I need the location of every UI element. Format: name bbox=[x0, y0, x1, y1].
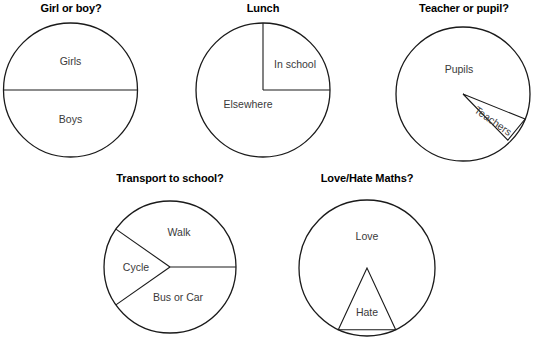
chart-title-girl-or-boy: Girl or boy? bbox=[0, 2, 142, 14]
pie-svg-lunch: In school Elsewhere bbox=[190, 18, 336, 164]
pie-svg-teacher-or-pupil: Pupils Teachers bbox=[393, 18, 535, 168]
pie-slice-label-pupils: Pupils bbox=[445, 63, 474, 75]
pie-slice-label-boys: Boys bbox=[59, 113, 82, 125]
pie-slice-label-walk: Walk bbox=[168, 226, 192, 238]
pie-chart-teacher-or-pupil: Teacher or pupil? Pupils Teachers bbox=[393, 2, 535, 164]
pie-slice-label-elsewhere: Elsewhere bbox=[223, 98, 272, 110]
pie-chart-love-hate-maths: Love/Hate Maths? Love Hate bbox=[295, 172, 439, 357]
pie-svg-love-hate-maths: Love Hate bbox=[295, 188, 439, 354]
pie-chart-girl-or-boy: Girl or boy? Girls Boys bbox=[0, 2, 142, 164]
chart-title-lunch: Lunch bbox=[190, 2, 336, 14]
pie-svg-girl-or-boy: Girls Boys bbox=[0, 18, 142, 164]
pie-slice-label-hate: Hate bbox=[356, 306, 378, 318]
pie-slice-label-cycle: Cycle bbox=[123, 261, 149, 273]
pie-slice-label-bus-or-car: Bus or Car bbox=[153, 291, 204, 303]
chart-title-teacher-or-pupil: Teacher or pupil? bbox=[393, 2, 535, 14]
pie-svg-transport-to-school: Walk Cycle Bus or Car bbox=[100, 188, 240, 354]
chart-title-love-hate-maths: Love/Hate Maths? bbox=[295, 172, 439, 184]
pie-slice-label-in-school: In school bbox=[274, 58, 316, 70]
pie-slice-label-love: Love bbox=[356, 230, 379, 242]
pie-chart-transport-to-school: Transport to school? Walk Cycle Bus or C… bbox=[100, 172, 240, 357]
pie-slice-label-girls: Girls bbox=[60, 55, 82, 67]
chart-title-transport-to-school: Transport to school? bbox=[100, 172, 240, 184]
pie-chart-lunch: Lunch In school Elsewhere bbox=[190, 2, 336, 164]
